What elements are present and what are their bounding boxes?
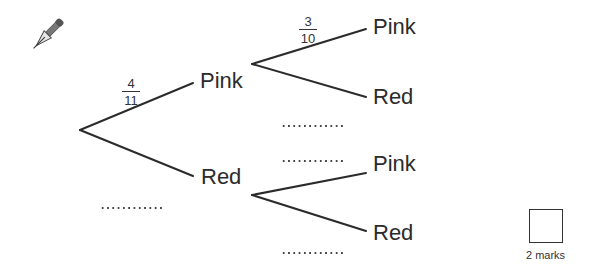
label-l1-pink: Pink <box>200 70 243 92</box>
answer-blank-l2b-pink[interactable] <box>281 159 345 163</box>
label-l2a-red: Red <box>373 86 413 108</box>
fraction-l1-pink: 4 11 <box>120 77 142 107</box>
label-l2a-pink: Pink <box>373 16 416 38</box>
denominator: 11 <box>120 92 142 107</box>
denominator: 10 <box>297 30 319 45</box>
branch-l1-red <box>80 130 193 176</box>
answer-blank-l1-red[interactable] <box>100 206 164 210</box>
answer-blank-l2a-red[interactable] <box>281 124 345 128</box>
fraction-l2a-pink: 3 10 <box>297 15 319 45</box>
numerator: 4 <box>120 77 142 91</box>
branch-l2b-red <box>252 195 366 231</box>
pen-nib-icon <box>26 14 68 56</box>
numerator: 3 <box>297 15 319 29</box>
label-l2b-red: Red <box>373 222 413 244</box>
label-l1-red: Red <box>201 166 241 188</box>
marks-label: 2 marks <box>526 249 565 261</box>
answer-blank-l2b-red[interactable] <box>281 251 345 255</box>
branch-l2b-pink <box>252 173 366 195</box>
marks-box <box>529 209 563 243</box>
branch-l2a-red <box>252 64 366 97</box>
label-l2b-pink: Pink <box>373 153 416 175</box>
